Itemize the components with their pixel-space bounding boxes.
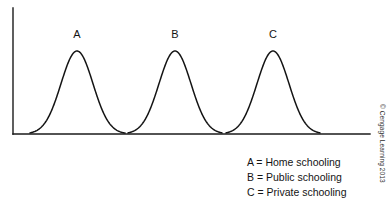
axes [13,8,370,134]
legend-item-a: A = Home schooling [247,155,347,170]
legend-item-b: B = Public schooling [247,170,347,185]
distribution-curves [30,51,320,133]
curve-b [128,51,222,133]
curve-label-c: C [263,28,283,40]
curve-label-a: A [67,28,87,40]
distribution-figure: A B C A = Home schooling B = Public scho… [0,0,392,215]
legend-item-c: C = Private schooling [247,185,347,200]
curve-label-b: B [165,28,185,40]
curve-c [226,51,320,133]
copyright-credit: © Cengage Learning 2013 [379,104,386,200]
legend: A = Home schooling B = Public schooling … [247,155,347,200]
curve-a [30,51,125,133]
